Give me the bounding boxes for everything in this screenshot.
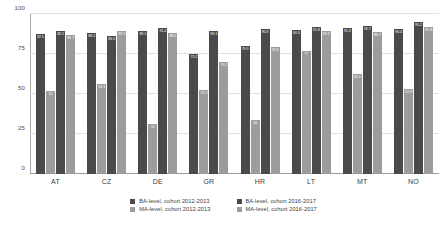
x-axis-label-at: AT — [30, 178, 81, 185]
bar[interactable]: 31 — [148, 124, 157, 174]
x-axis-label-hr: HR — [235, 178, 286, 185]
bar-value-label: 89.1 — [211, 33, 218, 37]
bar-value-label: 91.4 — [159, 30, 166, 34]
bar-value-label: 34 — [253, 122, 257, 126]
x-axis-label-gr: GR — [183, 178, 234, 185]
x-axis-labels: ATCZDEGRHRLTMTNO — [30, 178, 439, 185]
bar[interactable]: 34 — [251, 120, 260, 174]
legend-swatch-icon — [130, 199, 135, 204]
bar[interactable]: 91.3 — [343, 28, 352, 174]
bar[interactable]: 88.2 — [168, 33, 177, 174]
bar[interactable]: 86.7 — [66, 35, 75, 174]
legend-label: BA-level, cohort 2012-2013 — [139, 198, 209, 204]
bar-value-label: 89.3 — [118, 33, 125, 37]
bar[interactable]: 56.1 — [97, 84, 106, 174]
y-axis-tick-label: 100 — [14, 5, 25, 11]
bar[interactable]: 89.3 — [117, 31, 126, 174]
bar[interactable]: 89.2 — [56, 31, 65, 174]
bar[interactable]: 95.2 — [414, 22, 423, 174]
bar[interactable]: 90.3 — [292, 30, 301, 174]
legend-item[interactable]: MA-level, cohort 2016-2017 — [237, 206, 317, 212]
bar-group-lt: 90.37791.889.2 — [286, 14, 337, 174]
y-axis-tick-label: 25 — [18, 125, 25, 131]
bar[interactable]: 52.9 — [404, 89, 413, 174]
bar-value-label: 56.1 — [98, 86, 105, 90]
bar[interactable]: 79.6 — [271, 47, 280, 174]
bar-group-cz: 88.256.186.589.3 — [81, 14, 132, 174]
x-axis-label-lt: LT — [286, 178, 337, 185]
bar-group-de: 89.13191.488.2 — [132, 14, 183, 174]
bar-value-label: 86.5 — [108, 38, 115, 42]
bar[interactable]: 77 — [302, 51, 311, 174]
legend-item[interactable]: MA-level, cohort 2012-2013 — [130, 206, 210, 212]
bar-value-label: 89.2 — [57, 33, 64, 37]
bar-value-label: 90.3 — [293, 32, 300, 36]
bar-value-label: 89.1 — [139, 33, 146, 37]
bar[interactable]: 90.4 — [394, 29, 403, 174]
bar-value-label: 70.1 — [221, 64, 228, 68]
bar[interactable]: 62.6 — [353, 74, 362, 174]
bar-value-label: 95.2 — [415, 24, 422, 28]
bar[interactable]: 89.2 — [322, 31, 331, 174]
bar[interactable]: 89.1 — [209, 31, 218, 174]
bar-value-label: 77 — [304, 53, 308, 57]
bar-value-label: 91.8 — [313, 29, 320, 33]
legend-label: MA-level, cohort 2016-2017 — [246, 206, 317, 212]
y-axis-tick-label: 75 — [18, 45, 25, 51]
legend-item[interactable]: BA-level, cohort 2016-2017 — [237, 198, 317, 204]
bar[interactable]: 90.9 — [261, 29, 270, 174]
legend-swatch-icon — [237, 199, 242, 204]
bar[interactable]: 86.5 — [107, 36, 116, 174]
bar-value-label: 52 — [49, 93, 53, 97]
x-axis-label-mt: MT — [337, 178, 388, 185]
x-axis-label-de: DE — [132, 178, 183, 185]
bar-groups: 87.55289.286.788.256.186.589.389.13191.4… — [30, 14, 439, 174]
bar-value-label: 79.6 — [272, 49, 279, 53]
bar-value-label: 90.4 — [395, 31, 402, 35]
bar-group-mt: 91.362.692.788.7 — [337, 14, 388, 174]
bar-value-label: 92.7 — [364, 28, 371, 32]
bar-value-label: 62.6 — [354, 76, 361, 80]
bar[interactable]: 52 — [46, 91, 55, 174]
legend-swatch-icon — [130, 207, 135, 212]
legend-label: BA-level, cohort 2016-2017 — [246, 198, 316, 204]
bar[interactable]: 88.2 — [87, 33, 96, 174]
bar-value-label: 86.7 — [67, 37, 74, 41]
bar[interactable]: 52.2 — [199, 90, 208, 174]
bar[interactable]: 89.1 — [138, 31, 147, 174]
chart-legend: BA-level, cohort 2012-2013BA-level, coho… — [0, 198, 447, 212]
bar[interactable]: 92.7 — [363, 26, 372, 174]
bar-value-label: 52.9 — [405, 91, 412, 95]
bar-value-label: 87.5 — [37, 36, 44, 40]
bar-value-label: 90.9 — [262, 31, 269, 35]
x-axis-label-no: NO — [388, 178, 439, 185]
bar-value-label: 88.7 — [374, 34, 381, 38]
bar-group-at: 87.55289.286.7 — [30, 14, 81, 174]
legend-swatch-icon — [237, 207, 242, 212]
bar-group-gr: 75.252.289.170.1 — [183, 14, 234, 174]
bar-value-label: 88.2 — [169, 35, 176, 39]
bar-value-label: 52.2 — [201, 92, 208, 96]
bar-value-label: 79.9 — [242, 48, 249, 52]
bar[interactable]: 88.7 — [373, 32, 382, 174]
legend-items: BA-level, cohort 2012-2013BA-level, coho… — [130, 198, 317, 212]
y-axis-tick-label: 0 — [21, 165, 25, 171]
bar-value-label: 88.2 — [88, 35, 95, 39]
bar[interactable]: 87.5 — [36, 34, 45, 174]
bar-group-no: 90.452.995.291.8 — [388, 14, 439, 174]
bar-value-label: 89.2 — [323, 33, 330, 37]
bar[interactable]: 91.8 — [424, 27, 433, 174]
plot-area: 0255075100 87.55289.286.788.256.186.589.… — [30, 14, 439, 174]
y-axis-tick-label: 50 — [18, 85, 25, 91]
bar-value-label: 91.8 — [425, 29, 432, 33]
x-axis-label-cz: CZ — [81, 178, 132, 185]
bar[interactable]: 91.4 — [158, 28, 167, 174]
bar[interactable]: 91.8 — [312, 27, 321, 174]
bar-group-hr: 79.93490.979.6 — [235, 14, 286, 174]
bar[interactable]: 79.9 — [241, 46, 250, 174]
bar[interactable]: 70.1 — [219, 62, 228, 174]
bar[interactable]: 75.2 — [189, 54, 198, 174]
legend-item[interactable]: BA-level, cohort 2012-2013 — [130, 198, 210, 204]
bar-value-label: 91.3 — [344, 30, 351, 34]
bar-chart: 0255075100 87.55289.286.788.256.186.589.… — [0, 0, 447, 236]
